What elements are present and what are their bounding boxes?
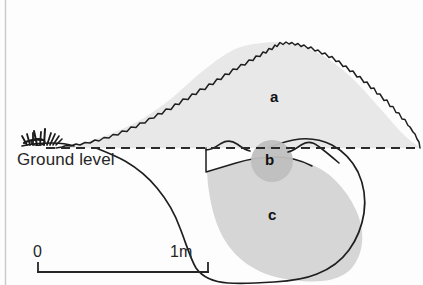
scale-bar: [38, 263, 208, 272]
vegetation-tuft: [22, 129, 74, 146]
nest-chamber-region-b: [251, 140, 293, 182]
burrow-cross-section-figure: a b c Ground level 0 1m: [0, 0, 423, 285]
spoil-mound-region-a: [56, 42, 420, 148]
diagram-canvas: [0, 0, 423, 285]
